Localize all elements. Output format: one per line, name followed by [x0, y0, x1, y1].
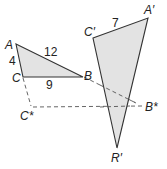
vertex-label-r-prime: R′ — [111, 151, 123, 165]
triangle-a-prime-c-prime-r-prime — [93, 18, 148, 148]
geometry-diagram: A C B 12 4 9 C′ A′ R′ 7 C* B* — [0, 0, 167, 169]
point-label-b-star: B* — [145, 100, 158, 114]
diagram-canvas: A C B 12 4 9 C′ A′ R′ 7 C* B* — [0, 0, 167, 169]
side-label-c-prime-a-prime: 7 — [112, 16, 119, 30]
vertex-label-c-prime: C′ — [84, 25, 96, 39]
vertex-label-a: A — [4, 38, 13, 52]
side-label-ab: 12 — [44, 45, 58, 59]
side-label-ac: 4 — [9, 54, 16, 68]
side-label-cb: 9 — [46, 78, 53, 92]
dashed-segment-c-cstar — [23, 78, 31, 106]
vertex-label-b: B — [84, 69, 92, 83]
point-label-c-star: C* — [20, 109, 34, 123]
vertex-label-a-prime: A′ — [143, 3, 155, 17]
vertex-label-c: C — [12, 71, 21, 85]
